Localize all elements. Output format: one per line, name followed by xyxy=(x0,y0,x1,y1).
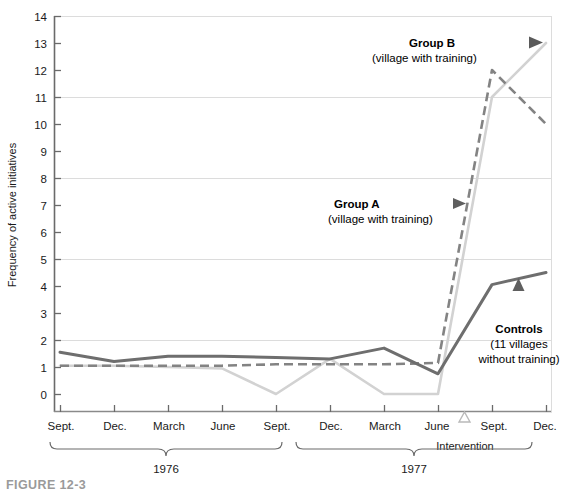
annotation-group-b: Group B (village with training) xyxy=(372,37,543,65)
annotation-controls-subtitle-2: without training) xyxy=(477,353,559,365)
x-tick-label-6: March xyxy=(369,420,401,432)
y-tick-label-0: 0 xyxy=(41,389,47,401)
y-tick-label-7: 7 xyxy=(41,200,47,212)
intervention-arrow-icon xyxy=(459,412,470,434)
year-brace-1977 xyxy=(296,442,532,456)
y-tick-labels: 14 13 12 11 10 9 8 7 6 5 4 3 2 1 0 xyxy=(34,11,47,401)
annotation-controls-arrow-icon xyxy=(513,278,525,320)
x-tick-label-9: Dec. xyxy=(533,420,557,432)
y-tick-label-2: 2 xyxy=(41,335,47,347)
figure-caption: FIGURE 12-3 xyxy=(6,478,86,492)
annotation-group-a-arrow-icon xyxy=(392,198,466,209)
series-line-group-b xyxy=(60,43,546,394)
x-tick-label-5: Dec. xyxy=(319,420,343,432)
annotation-controls-subtitle-1: (11 villages xyxy=(490,338,548,350)
y-tick-label-5: 5 xyxy=(41,254,47,266)
y-tick-label-9: 9 xyxy=(41,146,47,158)
x-tick-label-4: Sept. xyxy=(264,420,291,432)
figure-container: 14 13 12 11 10 9 8 7 6 5 4 3 2 1 0 Frequ… xyxy=(0,0,566,494)
year-label-1976: 1976 xyxy=(153,463,179,475)
annotation-group-a-title: Group A xyxy=(334,198,380,210)
annotation-intervention: Intervention xyxy=(436,412,493,452)
y-tick-label-6: 6 xyxy=(41,227,47,239)
y-tick-label-12: 12 xyxy=(34,65,47,77)
annotation-group-b-title: Group B xyxy=(409,37,455,49)
annotation-group-b-arrow-icon xyxy=(466,37,543,49)
y-axis-title: Frequency of active initiatives xyxy=(6,142,18,287)
annotation-controls-title: Controls xyxy=(495,323,542,335)
year-label-1977: 1977 xyxy=(401,463,427,475)
y-tick-label-8: 8 xyxy=(41,173,47,185)
year-labels: 1976 1977 xyxy=(153,463,427,475)
x-tick-label-3: June xyxy=(211,420,236,432)
y-tick-label-11: 11 xyxy=(35,92,47,104)
y-tick-label-4: 4 xyxy=(41,281,48,293)
x-tick-label-1: Dec. xyxy=(103,420,127,432)
x-tick-label-2: March xyxy=(153,420,185,432)
y-tick-label-13: 13 xyxy=(34,38,47,50)
x-tick-label-0: Sept. xyxy=(48,420,75,432)
annotation-group-a: Group A (village with training) xyxy=(328,198,466,225)
year-brace-1976 xyxy=(50,442,282,456)
axes xyxy=(54,16,552,412)
x-tick-labels: Sept. Dec. March June Sept. Dec. March J… xyxy=(48,420,557,432)
series-line-group-a xyxy=(60,70,546,366)
intervention-label: Intervention xyxy=(436,440,493,452)
x-tick-label-7: June xyxy=(425,420,450,432)
y-tick-label-14: 14 xyxy=(34,11,47,23)
x-tick-label-8: Sept. xyxy=(481,420,508,432)
y-tick-label-10: 10 xyxy=(34,119,47,131)
line-chart: 14 13 12 11 10 9 8 7 6 5 4 3 2 1 0 Frequ… xyxy=(0,0,566,494)
y-tick-label-3: 3 xyxy=(41,308,47,320)
annotation-group-b-subtitle: (village with training) xyxy=(372,52,477,64)
annotation-group-a-subtitle: (village with training) xyxy=(328,213,433,225)
y-tick-label-1: 1 xyxy=(41,362,47,374)
series-line-controls xyxy=(60,273,546,374)
